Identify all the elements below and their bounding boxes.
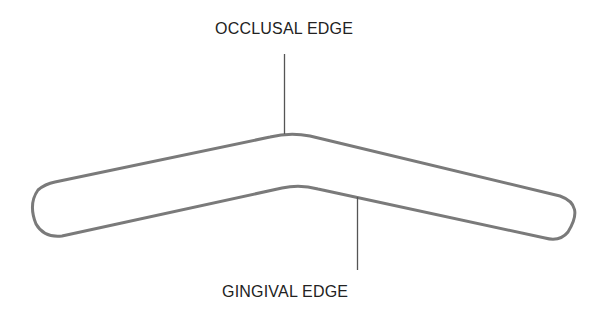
bent-bar-outline — [32, 134, 574, 239]
bent-bar-diagram — [0, 0, 597, 314]
